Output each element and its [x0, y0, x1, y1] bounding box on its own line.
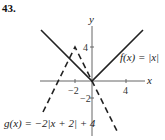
y-axis-label: y [88, 13, 94, 25]
x-tick-label-neg2: −2 [68, 85, 79, 96]
y-tick-label-neg2: −2 [80, 93, 91, 104]
y-tick-label-4: 4 [83, 42, 88, 53]
graph-figure: 43. x y −2 4 4 −2 f(x) = |x| g(x) = −2|x… [0, 0, 165, 140]
g-function-label: g(x) = −2|x + 2| + 4 [4, 117, 96, 130]
f-function-label: f(x) = |x| [120, 51, 159, 64]
x-tick-label-4: 4 [123, 85, 128, 96]
x-axis-label: x [146, 74, 152, 86]
problem-number: 43. [2, 2, 16, 14]
